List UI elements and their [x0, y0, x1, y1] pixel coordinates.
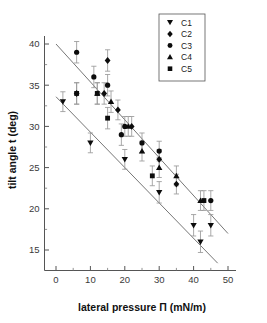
data-point	[91, 74, 96, 79]
data-point	[74, 50, 79, 55]
x-tick-label: 10	[85, 274, 96, 285]
legend-label-C5: C5	[181, 64, 192, 74]
data-point	[74, 91, 79, 96]
x-tick-label: 40	[188, 274, 199, 285]
y-tick-label: 35	[29, 80, 40, 91]
x-tick-label: 50	[223, 274, 234, 285]
x-tick-label: 0	[53, 274, 58, 285]
y-axis-title: tilt angle t (deg)	[6, 111, 18, 189]
legend-label-C1: C1	[181, 18, 192, 28]
data-point	[95, 91, 100, 96]
x-tick-label: 20	[120, 274, 131, 285]
y-tick-label: 20	[29, 203, 40, 214]
y-tick-label: 25	[29, 162, 40, 173]
legend-label-C2: C2	[181, 29, 192, 39]
data-point	[150, 173, 155, 178]
data-point	[105, 116, 110, 121]
legend: C1C2C3C4C5	[159, 14, 205, 81]
x-axis-title: lateral pressure Π (mN/m)	[78, 301, 206, 313]
data-point	[119, 132, 124, 137]
legend-label-C3: C3	[181, 41, 192, 51]
legend-label-C4: C4	[181, 52, 192, 62]
y-tick-label: 30	[29, 121, 40, 132]
data-point	[105, 83, 110, 88]
data-point	[202, 198, 207, 203]
chart-figure: 01020304050152025303540 C1C2C3C4C5 later…	[0, 0, 267, 323]
x-tick-label: 30	[154, 274, 165, 285]
data-point	[139, 140, 144, 145]
legend-marker-C3	[168, 43, 173, 48]
scatter-plot: 01020304050152025303540 C1C2C3C4C5 later…	[0, 0, 267, 323]
y-tick-label: 15	[29, 244, 40, 255]
data-point	[208, 198, 213, 203]
y-tick-label: 40	[29, 38, 40, 49]
data-point	[157, 149, 162, 154]
legend-marker-C5	[168, 66, 173, 71]
